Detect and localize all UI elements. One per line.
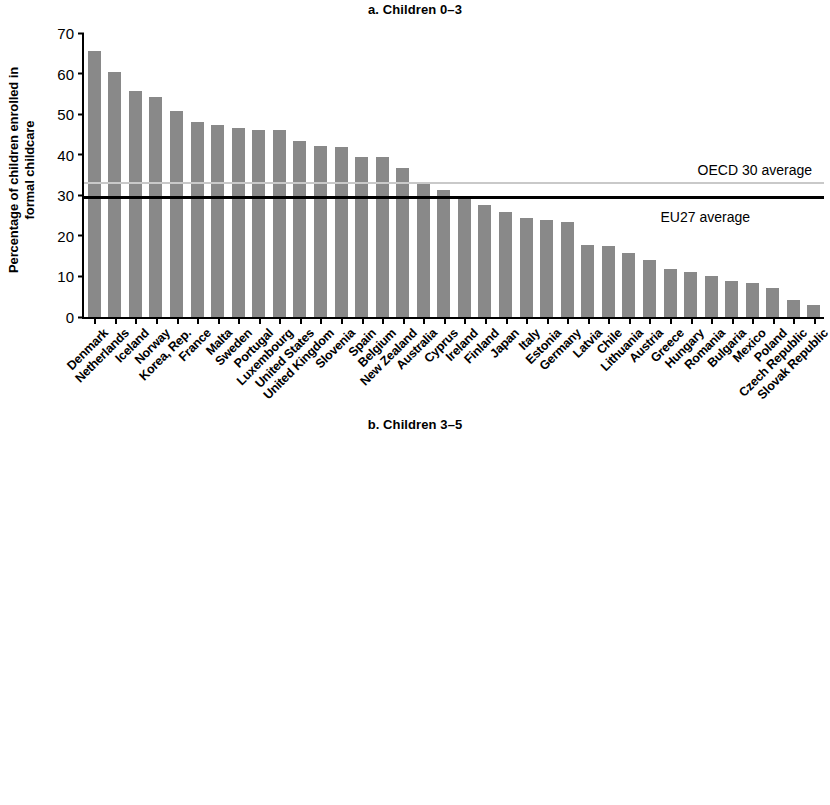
panel-a-x-ticks xyxy=(84,317,824,324)
x-tick xyxy=(598,317,619,324)
bar-cell xyxy=(351,33,372,317)
bar-cell xyxy=(249,33,270,317)
panel-a-title: a. Children 0–3 xyxy=(0,2,830,17)
x-tick xyxy=(125,317,146,324)
bar xyxy=(376,157,389,317)
x-tick xyxy=(105,317,126,324)
reference-line-label: EU27 average xyxy=(660,209,750,225)
y-tick-label: 10 xyxy=(57,268,78,285)
bar-cell xyxy=(207,33,228,317)
bar xyxy=(129,91,142,317)
x-tick xyxy=(536,317,557,324)
bar xyxy=(293,141,306,317)
x-tick xyxy=(269,317,290,324)
x-tick xyxy=(146,317,167,324)
bar xyxy=(273,130,286,317)
bar-cell xyxy=(454,33,475,317)
x-tick xyxy=(619,317,640,324)
bar xyxy=(602,246,615,317)
y-tick: 40 xyxy=(57,146,84,163)
bar xyxy=(232,128,245,317)
bar-cell xyxy=(84,33,105,317)
y-tick-label: 50 xyxy=(57,106,78,123)
bar xyxy=(664,269,677,317)
bar xyxy=(581,245,594,317)
bar-cell xyxy=(660,33,681,317)
x-tick xyxy=(495,317,516,324)
y-tick: 50 xyxy=(57,106,84,123)
bar xyxy=(725,281,738,317)
bar xyxy=(540,220,553,317)
x-tick xyxy=(166,317,187,324)
reference-line-label: OECD 30 average xyxy=(698,162,812,178)
bar-cell xyxy=(434,33,455,317)
bar-cell xyxy=(392,33,413,317)
bar xyxy=(211,125,224,317)
x-tick xyxy=(557,317,578,324)
x-tick xyxy=(660,317,681,324)
reference-line xyxy=(84,196,824,199)
figure: a. Children 0–3 Percentage of children e… xyxy=(0,0,830,805)
bar-cell xyxy=(269,33,290,317)
bar xyxy=(705,276,718,317)
y-tick: 20 xyxy=(57,227,84,244)
bar xyxy=(314,146,327,317)
y-tick-label: 70 xyxy=(57,25,78,42)
y-tick-label: 60 xyxy=(57,65,78,82)
x-tick xyxy=(372,317,393,324)
x-tick xyxy=(392,317,413,324)
bar xyxy=(252,130,265,317)
y-tick-label: 20 xyxy=(57,227,78,244)
y-tick-label: 40 xyxy=(57,146,78,163)
x-tick xyxy=(331,317,352,324)
chart-panel-a: a. Children 0–3 Percentage of children e… xyxy=(0,0,830,415)
x-tick xyxy=(413,317,434,324)
bar-cell xyxy=(557,33,578,317)
bar-cell xyxy=(413,33,434,317)
chart-panel-b: b. Children 3–5 Percentage of children e… xyxy=(0,415,830,805)
bar-cell xyxy=(598,33,619,317)
bar xyxy=(417,184,430,317)
x-tick xyxy=(578,317,599,324)
y-tick: 10 xyxy=(57,268,84,285)
bar xyxy=(561,222,574,317)
x-tick xyxy=(249,317,270,324)
bar xyxy=(499,212,512,317)
x-tick xyxy=(763,317,784,324)
bar xyxy=(478,205,491,317)
bar-cell xyxy=(495,33,516,317)
x-tick xyxy=(434,317,455,324)
bar xyxy=(355,157,368,317)
y-tick: 30 xyxy=(57,187,84,204)
bar-cell xyxy=(372,33,393,317)
bar xyxy=(396,168,409,317)
bar-cell xyxy=(228,33,249,317)
bar xyxy=(807,305,820,317)
y-tick: 0 xyxy=(66,309,84,326)
x-tick xyxy=(721,317,742,324)
x-tick xyxy=(310,317,331,324)
bar xyxy=(643,260,656,317)
panel-b-title: b. Children 3–5 xyxy=(0,417,830,432)
x-tick xyxy=(351,317,372,324)
bar-cell xyxy=(290,33,311,317)
bar-cell xyxy=(475,33,496,317)
y-tick-label: 0 xyxy=(66,309,78,326)
bar-cell xyxy=(578,33,599,317)
bar-cell xyxy=(516,33,537,317)
y-tick: 60 xyxy=(57,65,84,82)
x-tick xyxy=(207,317,228,324)
bar xyxy=(520,218,533,317)
bar xyxy=(458,199,471,317)
bar-cell xyxy=(536,33,557,317)
bar-cell xyxy=(146,33,167,317)
x-tick xyxy=(454,317,475,324)
x-tick xyxy=(742,317,763,324)
reference-line xyxy=(84,182,824,184)
x-tick xyxy=(680,317,701,324)
x-tick xyxy=(701,317,722,324)
panel-a-plot-area: 010203040506070 OECD 30 averageEU27 aver… xyxy=(82,33,824,319)
bar xyxy=(787,300,800,317)
bar xyxy=(108,72,121,317)
x-tick xyxy=(84,317,105,324)
